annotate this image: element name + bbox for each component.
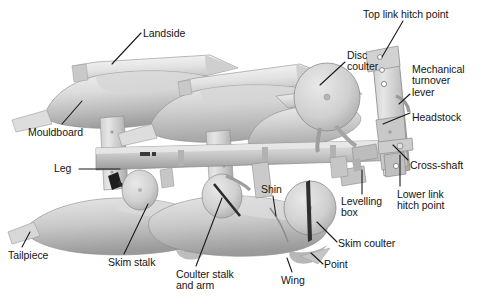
label-lower-link-hitch: Lower linkhitch point [397,189,444,212]
label-leg: Leg [54,163,71,174]
label-shin-line-0: Shin [261,184,282,195]
label-skim-coulter-line-0: Skim coulter [338,238,395,249]
label-wing: Wing [281,275,305,286]
label-leg-line-0: Leg [54,163,71,174]
label-point-line-0: Point [324,259,348,270]
label-headstock: Headstock [412,112,461,123]
label-mouldboard-line-0: Mouldboard [28,127,83,138]
label-disc-coulter-line-1: coulter [347,61,378,72]
label-top-link-hitch: Top link hitch point [363,9,448,20]
label-skim-stalk: Skim stalk [108,257,155,268]
label-cross-shaft-line-0: Cross-shaft [410,160,463,171]
label-skim-stalk-line-0: Skim stalk [108,257,155,268]
label-cross-shaft: Cross-shaft [410,160,463,171]
label-headstock-line-0: Headstock [412,112,461,123]
label-skim-coulter: Skim coulter [338,238,395,249]
plough-annotated-figure: LandsideMouldboardLegTailpieceSkim stalk… [0,0,481,308]
label-landside: Landside [143,28,185,39]
label-landside-line-0: Landside [143,28,185,39]
plough-photograph [0,0,481,308]
label-top-link-hitch-line-0: Top link hitch point [363,9,448,20]
label-disc-coulter: Disccoulter [347,50,378,73]
label-coulter-stalk-line-1: and arm [176,280,234,291]
label-levelling-box: Levellingbox [341,196,382,219]
label-shin: Shin [261,184,282,195]
label-mechanical-lever: Mechanicalturnoverlever [412,64,465,98]
label-mouldboard: Mouldboard [28,127,83,138]
label-lower-link-hitch-line-1: hitch point [397,200,444,211]
label-wing-line-0: Wing [281,275,305,286]
label-mechanical-lever-line-2: lever [412,87,465,98]
label-levelling-box-line-1: box [341,207,382,218]
label-tailpiece: Tailpiece [8,250,48,261]
label-coulter-stalk: Coulter stalkand arm [176,269,234,292]
label-tailpiece-line-0: Tailpiece [8,250,48,261]
label-point: Point [324,259,348,270]
